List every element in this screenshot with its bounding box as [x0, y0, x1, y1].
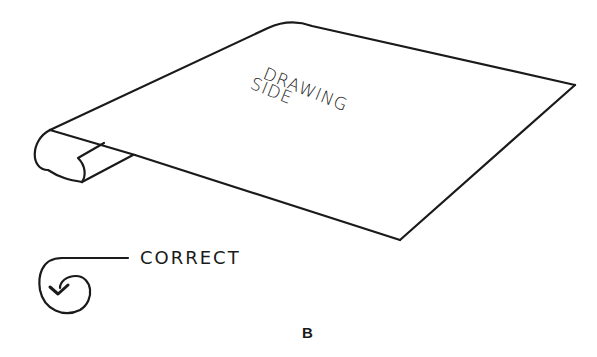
paper-roll-diagram: DRAWING SIDE CORRECT B — [0, 0, 597, 357]
arrow-head-icon — [50, 285, 68, 294]
paper-sheet — [50, 22, 575, 240]
correct-label: CORRECT — [140, 247, 241, 268]
roll-direction-indicator: CORRECT — [39, 247, 240, 313]
paper-roll-end — [35, 130, 135, 182]
drawing-side-label: DRAWING SIDE — [248, 60, 351, 128]
figure-caption: B — [302, 324, 313, 341]
